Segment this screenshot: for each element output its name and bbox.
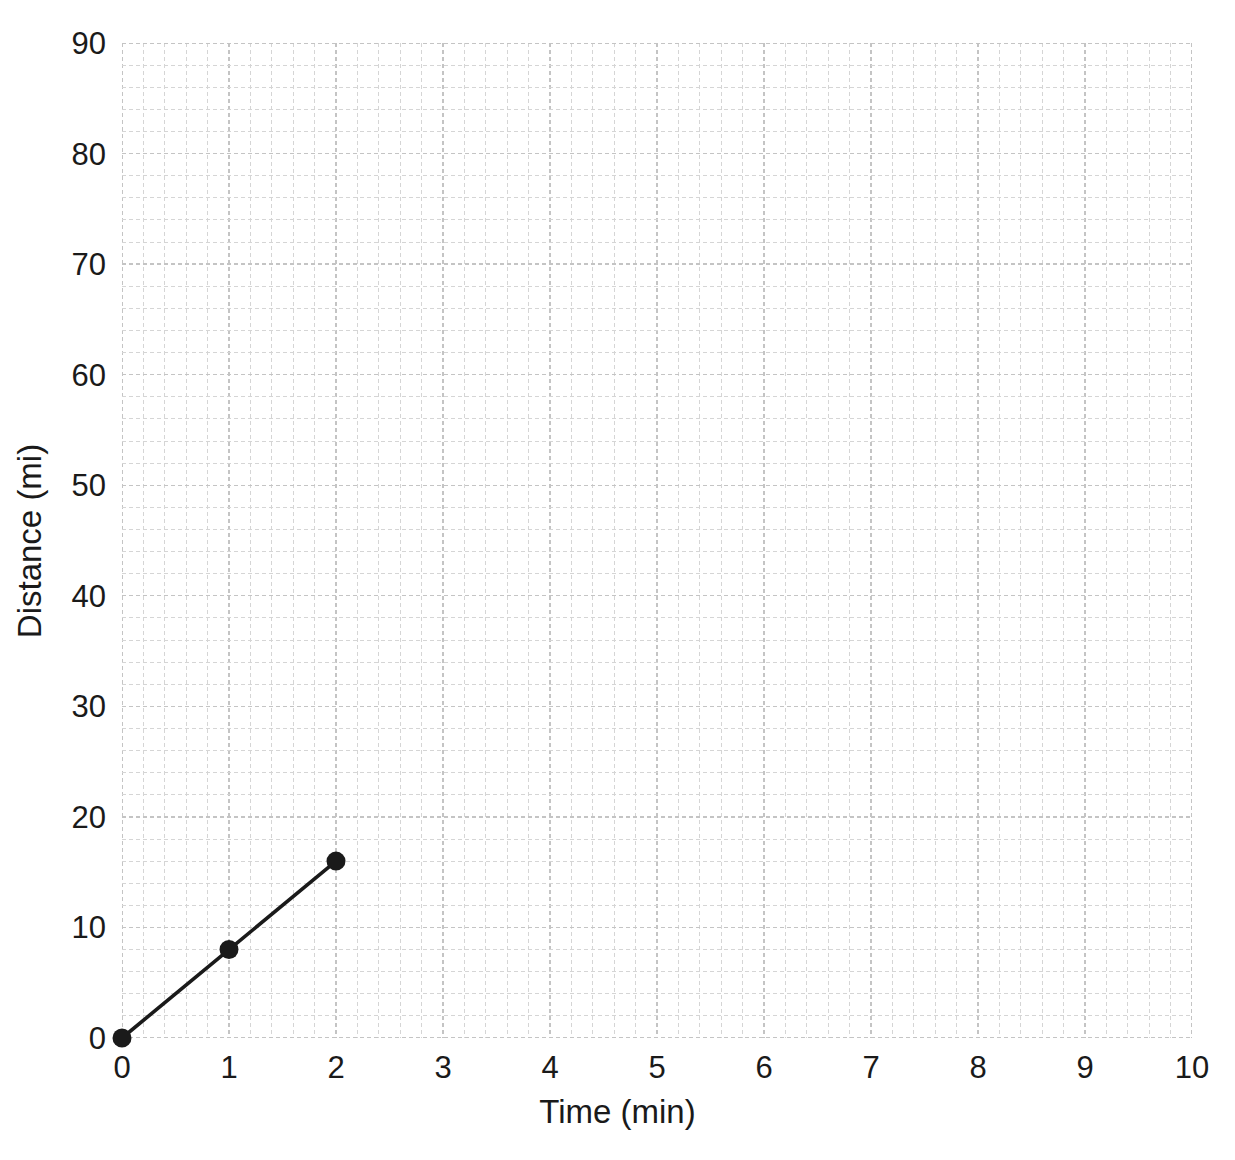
x-tick-label: 4	[541, 1052, 558, 1083]
x-tick-label: 7	[862, 1052, 879, 1083]
x-tick-label: 10	[1175, 1052, 1209, 1083]
x-tick-label: 3	[434, 1052, 451, 1083]
chart-figure: Distance (mi) 0102030405060708090 012345…	[0, 0, 1235, 1160]
x-tick-label: 5	[648, 1052, 665, 1083]
x-tick-label: 2	[327, 1052, 344, 1083]
x-tick-label: 6	[755, 1052, 772, 1083]
y-tick-label: 0	[30, 1023, 106, 1054]
y-tick-label: 30	[30, 691, 106, 722]
y-tick-label: 10	[30, 912, 106, 943]
y-tick-label: 20	[30, 801, 106, 832]
data-point-marker	[327, 852, 346, 871]
y-tick-label: 40	[30, 580, 106, 611]
x-tick-label: 8	[969, 1052, 986, 1083]
data-series-layer	[122, 43, 1192, 1038]
x-axis-title: Time (min)	[0, 1093, 1235, 1131]
x-tick-label: 1	[220, 1052, 237, 1083]
y-tick-label: 80	[30, 138, 106, 169]
y-tick-label: 70	[30, 249, 106, 280]
plot-area	[122, 43, 1192, 1038]
y-tick-label: 60	[30, 359, 106, 390]
x-tick-label: 0	[113, 1052, 130, 1083]
y-tick-label: 50	[30, 470, 106, 501]
x-tick-label: 9	[1076, 1052, 1093, 1083]
data-point-marker	[113, 1029, 132, 1048]
data-point-marker	[220, 940, 239, 959]
y-tick-label: 90	[30, 28, 106, 59]
